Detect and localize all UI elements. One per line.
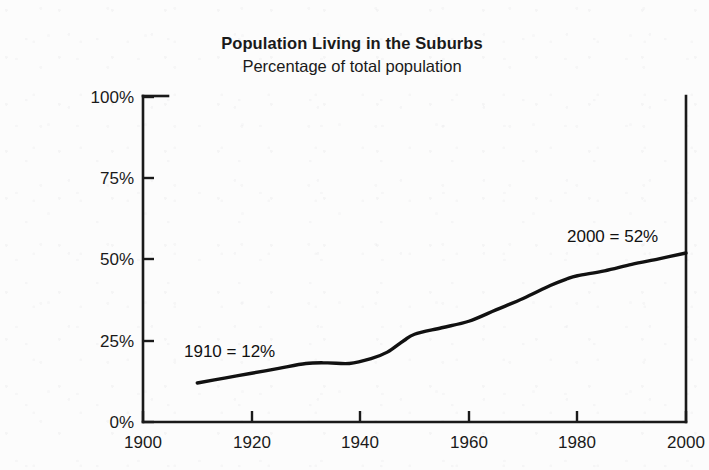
suburbs-population-line-chart: Population Living in the Suburbs Percent… <box>40 16 664 454</box>
y-axis-ticks <box>143 97 154 422</box>
x-axis-ticks <box>143 411 686 422</box>
y-axis-label-100: 100% <box>91 88 134 107</box>
plot-area: 100% 75% 50% 25% 0% 1900 1920 1940 1960 … <box>40 16 709 470</box>
y-axis-label-50: 50% <box>100 250 134 269</box>
y-axis-label-75: 75% <box>100 169 134 188</box>
data-series-line <box>197 253 686 383</box>
x-axis-label-1960: 1960 <box>450 433 488 452</box>
y-axis-label-0: 0% <box>109 413 134 432</box>
annotation-2000: 2000 = 52% <box>567 227 658 246</box>
x-axis-tick-labels: 1900 1920 1940 1960 1980 2000 <box>124 433 705 452</box>
y-axis-tick-labels: 100% 75% 50% 25% 0% <box>91 88 134 432</box>
x-axis-label-1900: 1900 <box>124 433 162 452</box>
annotation-1910: 1910 = 12% <box>184 342 275 361</box>
x-axis-label-1940: 1940 <box>341 433 379 452</box>
y-axis-label-25: 25% <box>100 332 134 351</box>
x-axis-label-2000: 2000 <box>667 433 705 452</box>
axis-lines <box>143 96 686 422</box>
x-axis-label-1920: 1920 <box>233 433 271 452</box>
x-axis-label-1980: 1980 <box>558 433 596 452</box>
